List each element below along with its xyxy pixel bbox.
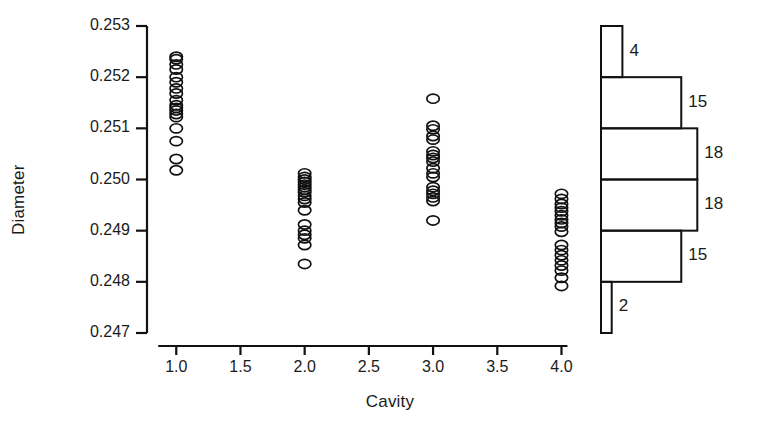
data-point [170,137,182,146]
data-points-group [170,52,568,290]
y-tick-label: 0.248 [52,272,130,290]
data-point [427,94,439,103]
x-tick-label: 3.0 [406,358,460,376]
histogram-bin-label: 15 [688,92,707,112]
histogram-bar [601,180,697,231]
y-tick-label: 0.253 [52,16,130,34]
y-tick-label: 0.249 [52,221,130,239]
histogram-bar [601,282,612,333]
histogram-bin-label: 2 [619,296,628,316]
histogram-bar [601,128,697,179]
data-point [427,216,439,225]
diameter-by-cavity-plot: Diameter Cavity 0.2470.2480.2490.2500.25… [0,0,759,438]
y-tick-label: 0.250 [52,170,130,188]
axes-group [136,26,567,355]
histogram-bin-label: 18 [704,194,723,214]
histogram-bin-label: 18 [704,143,723,163]
y-tick-label: 0.247 [52,323,130,341]
x-tick-label: 2.0 [278,358,332,376]
x-tick-label: 2.5 [342,358,396,376]
y-tick-label: 0.252 [52,67,130,85]
histogram-bar [601,26,622,77]
data-point [170,166,182,175]
data-point [298,240,310,249]
x-tick-label: 1.0 [149,358,203,376]
histogram-bar [601,231,681,282]
histogram-group [601,26,697,333]
x-tick-label: 4.0 [534,358,588,376]
x-tick-label: 3.5 [470,358,524,376]
x-tick-label: 1.5 [213,358,267,376]
data-point [170,124,182,133]
histogram-bar [601,77,681,128]
data-point [298,259,310,268]
histogram-bin-label: 4 [629,41,638,61]
histogram-bin-label: 15 [688,245,707,265]
y-tick-label: 0.251 [52,118,130,136]
data-point [170,154,182,163]
